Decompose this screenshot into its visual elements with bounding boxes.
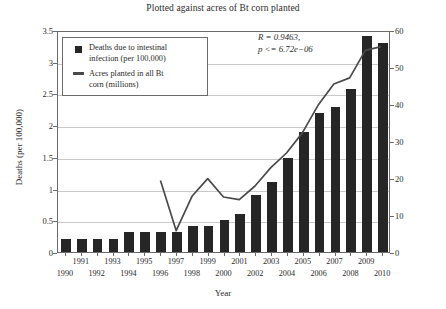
chart-title: Plotted against acres of Bt corn planted xyxy=(0,3,446,13)
y-tick-right: 10 xyxy=(395,211,425,221)
y-tickmark-left xyxy=(53,31,57,32)
x-tick: 1990 xyxy=(57,269,73,278)
chart-legend: Deaths due to intestinal infection (per … xyxy=(62,37,208,96)
square-marker-icon xyxy=(67,43,89,53)
legend-label-acres-line2: corn (millions) xyxy=(89,80,139,89)
y-tick-left: 2 xyxy=(23,121,53,131)
legend-label-acres: Acres planted in all Bt corn (millions) xyxy=(89,69,164,90)
x-tickmark xyxy=(255,253,256,256)
x-tickmark xyxy=(224,253,225,256)
x-tick: 2010 xyxy=(374,269,390,278)
x-tickmark xyxy=(160,253,161,256)
x-tickmark xyxy=(271,253,272,256)
x-tick: 1994 xyxy=(120,269,136,278)
y-tick-right: 0 xyxy=(395,248,425,258)
x-tick: 2007 xyxy=(326,257,342,266)
x-tick: 1991 xyxy=(73,257,89,266)
x-tick: 2008 xyxy=(342,269,358,278)
y-tickmark-left xyxy=(53,126,57,127)
stats-annotation: R = 0.9463, p <= 6.72e−06 xyxy=(258,32,313,55)
y-tick-right: 50 xyxy=(395,63,425,73)
y-tick-left: 1.5 xyxy=(23,153,53,163)
x-tickmark xyxy=(350,253,351,256)
y-tickmark-right xyxy=(390,253,394,254)
x-tickmark xyxy=(128,253,129,256)
x-tickmark xyxy=(192,253,193,256)
y-tickmark-left xyxy=(53,63,57,64)
x-tick: 1998 xyxy=(184,269,200,278)
legend-label-deaths-line1: Deaths due to intestinal xyxy=(89,43,167,52)
x-tick: 1997 xyxy=(168,257,184,266)
chart-figure: Plotted against acres of Bt corn planted… xyxy=(0,0,446,309)
x-tickmark xyxy=(366,253,367,256)
x-tickmark xyxy=(335,253,336,256)
y-tickmark-right xyxy=(390,216,394,217)
y-tick-left: 0.5 xyxy=(23,216,53,226)
x-tick: 2000 xyxy=(215,269,231,278)
x-tick: 2003 xyxy=(263,257,279,266)
y-tickmark-left xyxy=(53,221,57,222)
legend-label-deaths: Deaths due to intestinal infection (per … xyxy=(89,43,167,64)
legend-label-acres-line1: Acres planted in all Bt xyxy=(89,69,164,78)
x-tick: 1995 xyxy=(136,257,152,266)
annotation-p-value: p <= 6.72e−06 xyxy=(258,44,313,56)
legend-entry-deaths: Deaths due to intestinal infection (per … xyxy=(67,43,202,64)
y-tickmark-right xyxy=(390,179,394,180)
x-tickmark xyxy=(303,253,304,256)
y-tick-right: 40 xyxy=(395,100,425,110)
y-tickmark-left xyxy=(53,158,57,159)
x-tickmark xyxy=(113,253,114,256)
x-tickmark xyxy=(176,253,177,256)
x-tickmark xyxy=(97,253,98,256)
legend-entry-acres: Acres planted in all Bt corn (millions) xyxy=(67,69,202,90)
x-tick: 1993 xyxy=(104,257,120,266)
x-tickmark xyxy=(144,253,145,256)
annotation-r-value: R = 0.9463, xyxy=(258,32,313,44)
y-tickmark-left xyxy=(53,190,57,191)
y-tickmark-right xyxy=(390,31,394,32)
y-axis-left-label: Deaths (per 100,000) xyxy=(14,92,24,202)
legend-label-deaths-line2: infection (per 100,000) xyxy=(89,54,166,63)
x-tickmark xyxy=(382,253,383,256)
x-tickmark xyxy=(319,253,320,256)
x-tick: 1999 xyxy=(199,257,215,266)
y-tick-left: 1 xyxy=(23,185,53,195)
y-tickmark-left xyxy=(53,253,57,254)
x-tick: 1996 xyxy=(152,269,168,278)
y-tick-right: 30 xyxy=(395,137,425,147)
x-tick: 2009 xyxy=(358,257,374,266)
y-tickmark-left xyxy=(53,94,57,95)
x-tickmark xyxy=(81,253,82,256)
x-tickmark xyxy=(287,253,288,256)
x-tick: 2004 xyxy=(279,269,295,278)
y-tickmark-right xyxy=(390,68,394,69)
y-tick-right: 20 xyxy=(395,174,425,184)
y-tick-left: 3 xyxy=(23,58,53,68)
x-tick: 2002 xyxy=(247,269,263,278)
x-tickmark xyxy=(239,253,240,256)
x-tick: 2001 xyxy=(231,257,247,266)
y-tick-left: 3.5 xyxy=(23,26,53,36)
x-tickmark xyxy=(65,253,66,256)
x-axis-label: Year xyxy=(0,288,446,298)
y-tick-right: 60 xyxy=(395,26,425,36)
y-tick-left: 0 xyxy=(23,248,53,258)
line-marker-icon xyxy=(67,69,89,75)
y-tickmark-right xyxy=(390,105,394,106)
y-tick-left: 2.5 xyxy=(23,89,53,99)
y-tickmark-right xyxy=(390,142,394,143)
x-tick: 2006 xyxy=(310,269,326,278)
x-tick: 1992 xyxy=(88,269,104,278)
x-tick: 2005 xyxy=(295,257,311,266)
x-tickmark xyxy=(208,253,209,256)
